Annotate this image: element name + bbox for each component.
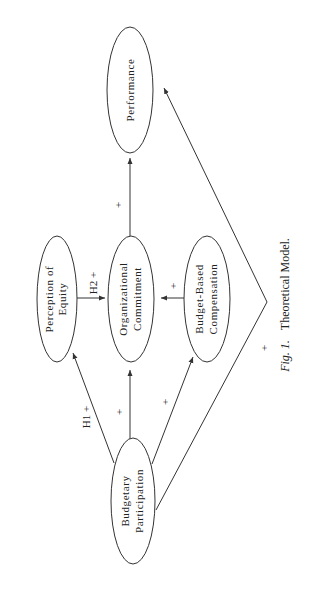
node-performance: Performance [107,27,153,153]
edge-label-compensation-commitment: + [167,283,179,289]
edge-label-commitment-performance: + [112,202,124,208]
caption-fig-number: Fig. 1. [278,340,292,373]
node-commitment-label-line1: Organizational [117,262,129,336]
node-compensation-label-line1: Budget-Based [193,264,205,334]
node-commitment-label-line2: Commitment [131,267,143,331]
node-participation-label-line1: Budgetary [119,475,131,526]
node-compensation-label-line2: Compensation [207,264,219,335]
edge-bp-to-compensation [152,357,193,464]
node-equity-label-line1: Perception of [43,266,55,333]
edge-label-h2: H2 + [87,272,99,294]
edge-label-bp-compensation: + [159,399,171,405]
caption-title: Theoretical Model. [278,238,292,330]
node-participation-label-line2: Participation [133,469,145,533]
svg-text:Fig. 1.Theoretical Model.: Fig. 1.Theoretical Model. [278,238,292,373]
node-organizational-commitment: Organizational Commitment [108,236,154,362]
node-performance-label: Performance [124,59,136,122]
edge-label-bp-commitment: + [113,409,125,415]
edge-label-bp-performance: + [258,345,270,351]
node-budget-based-compensation: Budget-Based Compensation [184,236,230,362]
edge-label-h1: H1 + [80,406,92,428]
figure-caption: Fig. 1.Theoretical Model. [278,238,292,373]
node-budgetary-participation: Budgetary Participation [111,438,155,564]
theoretical-model-diagram: H1 + + + + H2 + + + Performance Percepti… [0,0,315,590]
node-perception-of-equity: Perception of Equity [37,236,77,362]
node-equity-label-line2: Equity [56,283,68,316]
